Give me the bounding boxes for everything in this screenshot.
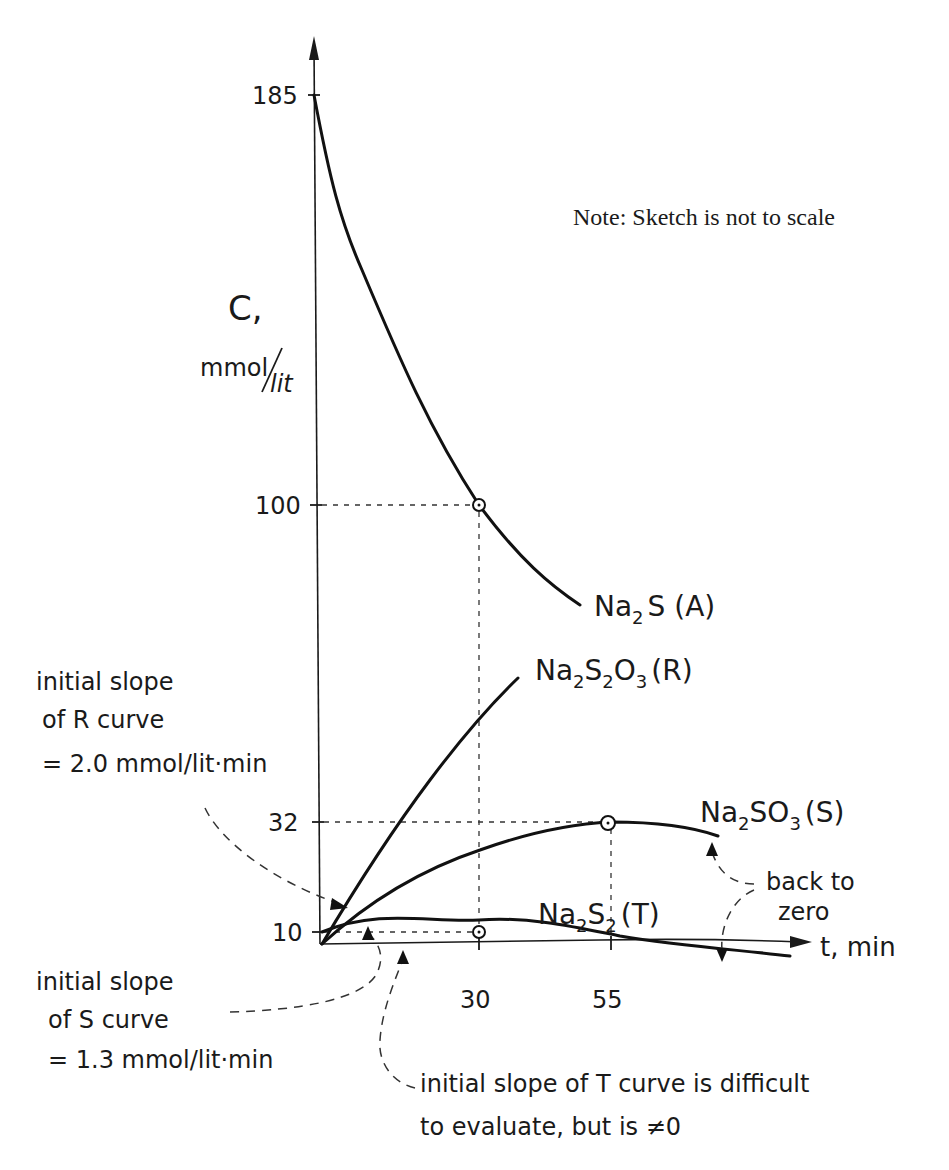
label-na2so3-s: Na2SO3(S): [700, 796, 844, 834]
label-na2s2o3-r: Na2S2O3(R): [535, 654, 693, 692]
x-axis-label: t, min: [820, 932, 896, 962]
svg-text:back to: back to: [766, 868, 855, 896]
svg-text:of R curve: of R curve: [42, 706, 164, 734]
svg-text:= 2.0 mmol/lit·min: = 2.0 mmol/lit·min: [42, 750, 267, 778]
label-na2s2-t: Na2S2(T): [538, 898, 660, 936]
arrowhead-icon: [706, 842, 718, 856]
svg-text:initial slope: initial slope: [36, 968, 173, 996]
annotation-t-slope: initial slope of T curve is difficult to…: [380, 950, 810, 1141]
y-axis-arrow-icon: [309, 36, 319, 60]
svg-text:Na2S2O3(R): Na2S2O3(R): [535, 654, 693, 692]
curve-na2s2o3-r: [322, 678, 518, 944]
y-tick-100: 100: [255, 492, 301, 520]
svg-text:to evaluate, but is ≠0: to evaluate, but is ≠0: [420, 1113, 681, 1141]
svg-text:Na2S2(T): Na2S2(T): [538, 898, 660, 936]
concentration-time-sketch: 185 100 32 10 30 55 C, mmol lit t, min N…: [0, 0, 949, 1170]
label-na2s-a: Na2S (A): [594, 590, 715, 628]
x-axis-arrow-icon: [790, 936, 812, 948]
scale-note: Note: Sketch is not to scale: [573, 204, 835, 230]
y-tick-32: 32: [268, 809, 299, 837]
y-axis-units-denominator: lit: [270, 370, 294, 398]
svg-text:of S curve: of S curve: [48, 1006, 169, 1034]
svg-text:initial slope: initial slope: [36, 668, 173, 696]
arrowhead-icon: [716, 948, 728, 962]
annotation-s-slope: initial slope of S curve = 1.3 mmol/lit·…: [36, 926, 381, 1074]
svg-text:Na2SO3(S): Na2SO3(S): [700, 796, 844, 834]
arrowhead-icon: [362, 926, 374, 940]
curve-na2s-a: [314, 95, 580, 605]
y-ticks: [308, 95, 324, 932]
svg-text:zero: zero: [778, 898, 829, 926]
svg-text:= 1.3 mmol/lit·min: = 1.3 mmol/lit·min: [48, 1046, 273, 1074]
y-axis-units-numerator: mmol: [200, 354, 268, 382]
x-axis: [320, 939, 800, 944]
x-tick-30: 30: [460, 986, 491, 1014]
y-axis: [314, 45, 320, 944]
arrowhead-icon: [397, 950, 409, 964]
annotation-r-slope: initial slope of R curve = 2.0 mmol/lit·…: [36, 668, 348, 910]
x-ticks: [479, 936, 611, 950]
y-tick-185: 185: [252, 82, 298, 110]
y-axis-label: C,: [228, 288, 263, 328]
y-tick-10: 10: [272, 919, 303, 947]
x-tick-55: 55: [592, 986, 623, 1014]
svg-text:Na2S (A): Na2S (A): [594, 590, 715, 628]
svg-text:initial slope of T curve is di: initial slope of T curve is difficult: [420, 1070, 809, 1098]
